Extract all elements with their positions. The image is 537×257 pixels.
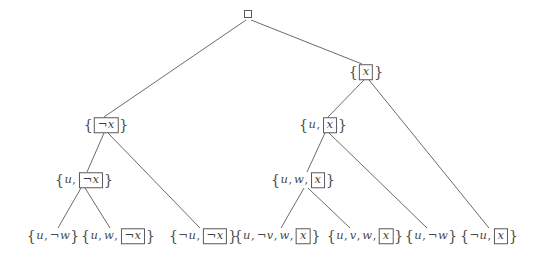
literal: u [336, 230, 344, 242]
selected-literal-box: x [311, 172, 326, 188]
selected-literal-box: x [494, 228, 509, 244]
comma-separator: , [196, 230, 201, 242]
literal: u [36, 230, 44, 242]
open-brace: { [55, 173, 64, 187]
clause-node: {u,x} [299, 117, 347, 133]
literal: ¬v [256, 230, 274, 242]
literal: ¬w [427, 230, 448, 242]
close-brace: } [509, 229, 518, 243]
negation-symbol: ¬ [428, 228, 438, 242]
tree-edge [85, 188, 110, 228]
open-brace: { [460, 229, 469, 243]
selected-literal-box: x [296, 228, 311, 244]
open-brace: { [405, 229, 414, 243]
tree-edge [307, 133, 325, 172]
close-brace: } [119, 118, 128, 132]
clause-node: {u,v,w,x} [327, 228, 404, 244]
open-brace: { [271, 173, 280, 187]
tree-edge [328, 80, 364, 117]
literal: ¬u [178, 230, 197, 242]
open-brace: { [299, 118, 308, 132]
negation-symbol: ¬ [207, 228, 217, 242]
clause-node: {u,¬w} [405, 229, 457, 243]
literal: w [103, 230, 114, 242]
clause-node: {u,¬v,w,x} [234, 228, 321, 244]
tree-edge [251, 20, 362, 64]
clause-node: {u,¬x} [55, 172, 113, 188]
selected-literal-box: x [359, 64, 374, 80]
open-brace: { [234, 229, 243, 243]
comma-separator: , [114, 230, 119, 242]
variable: v [267, 228, 274, 242]
selected-literal-box: ¬x [94, 117, 119, 133]
literal: ¬u [469, 230, 488, 242]
open-brace: { [81, 229, 90, 243]
close-brace: } [70, 229, 79, 243]
tree-edge [369, 80, 489, 228]
clause-node: {u,w,x} [271, 172, 335, 188]
close-brace: } [374, 65, 383, 79]
selected-literal-box: x [379, 228, 394, 244]
variable: x [93, 172, 100, 186]
literal: w [294, 174, 305, 186]
variable: w [438, 228, 448, 242]
selected-literal-box: ¬x [78, 172, 103, 188]
close-brace: } [338, 118, 347, 132]
literal: u [243, 230, 251, 242]
close-brace: } [311, 229, 320, 243]
variable: w [60, 228, 70, 242]
selected-literal-box: x [323, 117, 338, 133]
negation-symbol: ¬ [178, 228, 188, 242]
variable: x [108, 117, 115, 131]
negation-symbol: ¬ [98, 117, 108, 131]
tree-edges [0, 0, 537, 257]
open-brace: { [169, 229, 178, 243]
close-brace: } [104, 173, 113, 187]
literal: u [308, 119, 316, 131]
negation-symbol: ¬ [257, 228, 267, 242]
selected-literal-box: ¬x [203, 228, 228, 244]
variable: u [480, 228, 487, 242]
negation-symbol: ¬ [469, 228, 479, 242]
tree-edge [58, 188, 81, 228]
literal: ¬w [49, 230, 70, 242]
close-brace: } [326, 173, 335, 187]
clause-node: {u,¬w} [27, 229, 79, 243]
literal: w [279, 230, 290, 242]
literal: w [362, 230, 373, 242]
literal: u [64, 174, 72, 186]
open-brace: { [327, 229, 336, 243]
resolution-tree-figure: {¬x}{x}{u,¬x}{u,x}{u,w,x}{u,¬w}{u,w,¬x}{… [0, 0, 537, 257]
selected-literal-box: ¬x [120, 228, 145, 244]
tree-edge [308, 188, 350, 228]
negation-symbol: ¬ [50, 228, 60, 242]
empty-clause-node [244, 10, 252, 18]
open-brace: { [27, 229, 36, 243]
literal: u [90, 230, 98, 242]
negation-symbol: ¬ [124, 228, 134, 242]
comma-separator: , [487, 230, 492, 242]
variable: u [188, 228, 195, 242]
open-brace: { [349, 65, 358, 79]
negation-symbol: ¬ [82, 172, 92, 186]
clause-node: {u,w,¬x} [81, 228, 155, 244]
literal: v [349, 230, 357, 242]
clause-node: {¬u,x} [460, 228, 518, 244]
clause-node: {¬x} [84, 117, 128, 133]
tree-edge [281, 188, 304, 228]
comma-separator: , [316, 119, 321, 131]
literal: u [280, 174, 288, 186]
comma-separator: , [72, 174, 77, 186]
tree-edge [104, 20, 246, 117]
close-brace: } [146, 229, 155, 243]
tree-edge [87, 133, 104, 172]
comma-separator: , [290, 230, 295, 242]
close-brace: } [448, 229, 457, 243]
comma-separator: , [304, 174, 309, 186]
literal: u [414, 230, 422, 242]
open-brace: { [84, 118, 93, 132]
tree-edge [108, 133, 200, 228]
comma-separator: , [373, 230, 378, 242]
variable: x [135, 228, 142, 242]
clause-node: {¬u,¬x} [169, 228, 237, 244]
